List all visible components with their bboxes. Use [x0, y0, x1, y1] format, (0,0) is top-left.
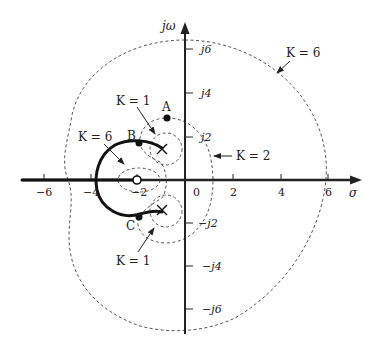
x-tick-label: −6 — [36, 186, 52, 199]
y-tick-label: −j6 — [202, 303, 222, 316]
pointer-k6-outer-icon — [277, 61, 290, 73]
x-tick-label: 4 — [278, 186, 285, 199]
x-tick-label: −4 — [83, 186, 99, 199]
point-b-label: B — [127, 129, 136, 143]
label-k6-outer: K = 6 — [286, 46, 320, 60]
point-c-label: C — [126, 219, 135, 233]
x-tick-label: 2 — [230, 186, 237, 199]
label-k1-upper: K = 1 — [116, 94, 150, 108]
pointer-k1-upper-icon — [137, 107, 155, 134]
point-c — [136, 214, 143, 221]
x-tick-label: 0 — [193, 186, 200, 199]
zero-icon — [133, 176, 141, 184]
x-tick-label: 6 — [325, 186, 332, 199]
y-tick-label: j2 — [198, 131, 211, 144]
jw-axis-label: jω — [159, 19, 176, 33]
point-a-label: A — [161, 100, 171, 114]
y-tick-label: j4 — [198, 87, 211, 100]
sigma-axis-label: σ — [349, 186, 358, 200]
root-locus-diagram: A B C jω σ −6 −4 −2 0 2 4 6 j6 j4 j2 −j2… — [0, 0, 379, 351]
point-a — [164, 115, 171, 122]
y-tick-label: −j4 — [202, 260, 222, 273]
label-k2: K = 2 — [236, 149, 270, 163]
jw-axis-arrow-icon — [181, 22, 190, 34]
label-k6-inner: K = 6 — [78, 130, 112, 144]
x-tick-label: −2 — [131, 186, 147, 199]
point-b — [136, 140, 143, 147]
y-tick-label: j6 — [198, 43, 211, 56]
sigma-axis-arrow-icon — [350, 176, 362, 185]
label-k1-lower: K = 1 — [116, 254, 150, 268]
contour-k1-upper — [150, 133, 182, 165]
y-tick-label: −j2 — [198, 217, 218, 230]
pole-upper-icon — [157, 144, 167, 154]
